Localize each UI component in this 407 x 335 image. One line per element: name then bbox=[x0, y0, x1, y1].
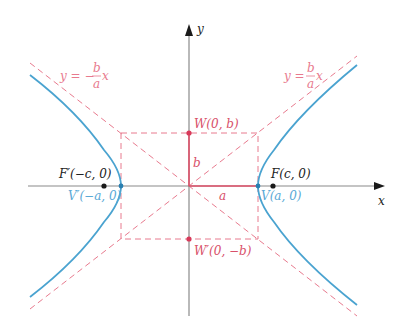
point-v-prime bbox=[119, 184, 124, 189]
svg-text:a: a bbox=[93, 77, 100, 91]
svg-text:b: b bbox=[307, 61, 315, 75]
label-w: W(0, b) bbox=[194, 117, 239, 131]
y-axis-arrow-icon bbox=[185, 24, 193, 36]
label-f: F(c, 0) bbox=[270, 167, 311, 181]
point-f-prime bbox=[101, 183, 106, 188]
point-f bbox=[270, 183, 275, 188]
y-axis-label: y bbox=[196, 22, 204, 36]
label-f-prime: F′(−c, 0) bbox=[58, 167, 112, 181]
label-segment-a: a bbox=[219, 189, 226, 203]
svg-text:y =: y = bbox=[283, 69, 305, 83]
x-axis-label: x bbox=[378, 194, 385, 208]
svg-text:x: x bbox=[102, 69, 109, 83]
hyperbola-diagram: y x y = − b a x y = b a x W(0, b) W′(0, … bbox=[0, 0, 407, 335]
svg-text:a: a bbox=[307, 77, 314, 91]
svg-text:b: b bbox=[93, 61, 101, 75]
point-w-prime bbox=[186, 236, 191, 241]
label-v-prime: V′(−a, 0) bbox=[68, 189, 122, 203]
label-w-prime: W′(0, −b) bbox=[194, 244, 252, 258]
asymptote-negative-label: y = − b a x bbox=[59, 61, 109, 91]
x-axis-arrow-icon bbox=[374, 182, 385, 190]
point-v bbox=[256, 184, 261, 189]
svg-text:y = −: y = − bbox=[59, 69, 95, 83]
svg-text:x: x bbox=[316, 69, 323, 83]
label-v: V(a, 0) bbox=[261, 189, 302, 203]
label-segment-b: b bbox=[193, 156, 201, 170]
point-w bbox=[186, 130, 191, 135]
asymptote-positive-slope bbox=[30, 56, 357, 309]
